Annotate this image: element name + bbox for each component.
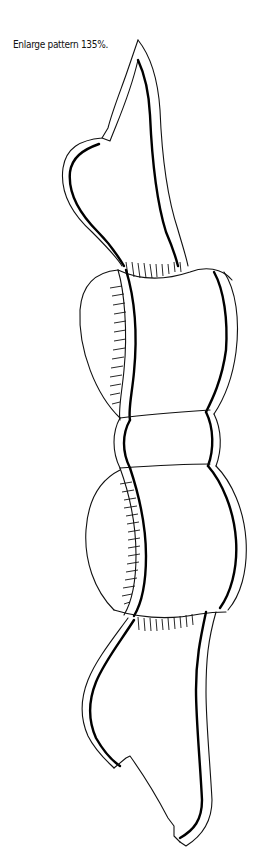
- bow-pattern-drawing: [0, 0, 280, 853]
- lower-bow-loop: [86, 466, 247, 617]
- bottom-ribbon-tail: [82, 612, 216, 846]
- bow-center-knot: [114, 412, 220, 468]
- top-ribbon-tail: [62, 40, 188, 266]
- upper-bow-loop: [80, 269, 238, 420]
